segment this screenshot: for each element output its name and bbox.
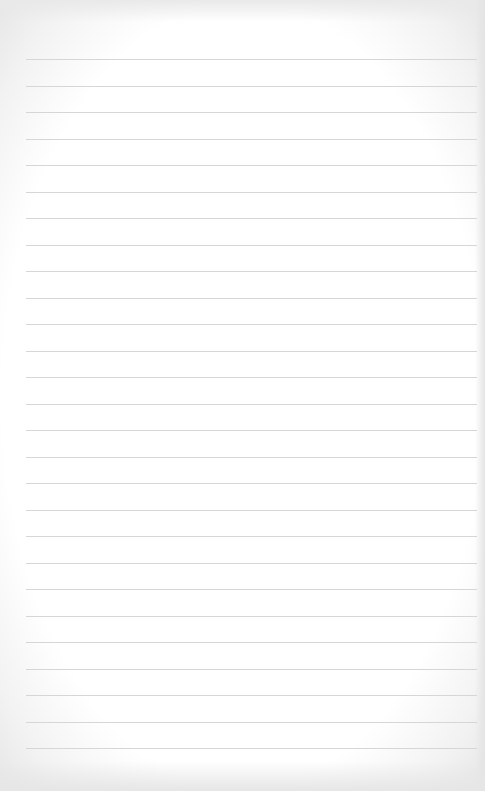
ruled-line bbox=[26, 245, 477, 246]
ruled-line bbox=[26, 483, 477, 484]
ruled-line bbox=[26, 271, 477, 272]
ruled-line bbox=[26, 430, 477, 431]
ruled-lines bbox=[0, 0, 485, 791]
ruled-line bbox=[26, 377, 477, 378]
ruled-line bbox=[26, 86, 477, 87]
ruled-line bbox=[26, 324, 477, 325]
lined-paper bbox=[0, 0, 485, 791]
ruled-line bbox=[26, 298, 477, 299]
ruled-line bbox=[26, 59, 477, 60]
ruled-line bbox=[26, 695, 477, 696]
ruled-line bbox=[26, 218, 477, 219]
ruled-line bbox=[26, 112, 477, 113]
ruled-line bbox=[26, 510, 477, 511]
ruled-line bbox=[26, 351, 477, 352]
ruled-line bbox=[26, 563, 477, 564]
ruled-line bbox=[26, 669, 477, 670]
ruled-line bbox=[26, 536, 477, 537]
ruled-line bbox=[26, 748, 477, 749]
ruled-line bbox=[26, 616, 477, 617]
ruled-line bbox=[26, 404, 477, 405]
ruled-line bbox=[26, 457, 477, 458]
ruled-line bbox=[26, 139, 477, 140]
ruled-line bbox=[26, 165, 477, 166]
ruled-line bbox=[26, 722, 477, 723]
ruled-line bbox=[26, 642, 477, 643]
ruled-line bbox=[26, 192, 477, 193]
ruled-line bbox=[26, 589, 477, 590]
